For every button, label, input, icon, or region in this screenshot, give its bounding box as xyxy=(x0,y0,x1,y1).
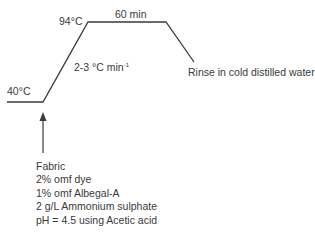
dye-bath-recipe: Fabric 2% omf dye 1% omf Albegal-A 2 g/L… xyxy=(36,160,157,227)
recipe-item-albegal: 1% omf Albegal-A xyxy=(36,187,157,200)
start-temperature-label: 40°C xyxy=(7,85,30,97)
peak-temperature-label: 94°C xyxy=(59,15,82,27)
ramp-rate-text: 2-3 °C min xyxy=(74,61,124,73)
recipe-item-ammonium-sulphate: 2 g/L Ammonium sulphate xyxy=(36,200,157,213)
recipe-item-ph: pH = 4.5 using Acetic acid xyxy=(36,214,157,227)
recipe-item-dye: 2% omf dye xyxy=(36,173,157,186)
recipe-item-fabric: Fabric xyxy=(36,160,157,173)
hold-time-label: 60 min xyxy=(115,8,147,20)
ramp-rate-label: 2-3 °C min-1 xyxy=(74,59,129,73)
ramp-rate-exponent: -1 xyxy=(124,62,129,68)
rinse-step-label: Rinse in cold distilled water xyxy=(188,66,315,78)
dyeing-profile-diagram: 40°C 94°C 60 min 2-3 °C min-1 Rinse in c… xyxy=(0,0,315,238)
addition-arrow-icon xyxy=(40,112,47,153)
